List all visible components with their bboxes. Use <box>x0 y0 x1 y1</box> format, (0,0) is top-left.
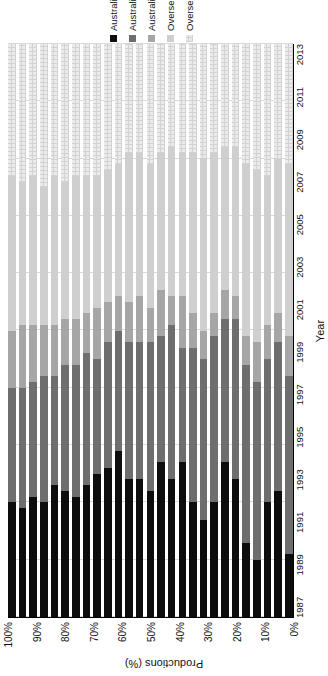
bar-segment[interactable] <box>264 176 272 325</box>
bar-segment[interactable] <box>61 491 69 617</box>
bar-segment[interactable] <box>72 319 80 365</box>
table-row[interactable] <box>29 44 37 617</box>
bar-segment[interactable] <box>19 325 27 388</box>
bar-segment[interactable] <box>19 44 27 182</box>
bar-segment[interactable] <box>189 313 197 347</box>
bar-segment[interactable] <box>189 44 197 153</box>
bar-segment[interactable] <box>93 44 101 176</box>
bar-segment[interactable] <box>61 319 69 365</box>
bar-segment[interactable] <box>189 153 197 313</box>
bar-segment[interactable] <box>210 502 218 617</box>
bar-segment[interactable] <box>8 502 16 617</box>
table-row[interactable] <box>19 44 27 617</box>
table-row[interactable] <box>210 44 218 617</box>
bar-segment[interactable] <box>40 187 48 325</box>
bar-segment[interactable] <box>264 44 272 176</box>
bar-segment[interactable] <box>8 388 16 503</box>
bar-segment[interactable] <box>29 44 37 176</box>
bar-segment[interactable] <box>125 44 133 153</box>
bar-segment[interactable] <box>147 44 155 164</box>
bar-segment[interactable] <box>264 502 272 617</box>
bar-segment[interactable] <box>221 319 229 462</box>
bar-segment[interactable] <box>168 147 176 296</box>
bar-segment[interactable] <box>285 164 293 336</box>
table-row[interactable] <box>264 44 272 617</box>
table-row[interactable] <box>253 44 261 617</box>
bar-segment[interactable] <box>179 153 187 296</box>
legend-item[interactable]: Overseas classic <box>165 2 176 42</box>
bar-segment[interactable] <box>253 342 261 382</box>
table-row[interactable] <box>83 44 91 617</box>
bar-segment[interactable] <box>157 290 165 336</box>
bar-segment[interactable] <box>274 159 282 314</box>
bar-segment[interactable] <box>51 376 59 485</box>
bar-segment[interactable] <box>51 485 59 617</box>
bar-segment[interactable] <box>274 342 282 491</box>
bar-segment[interactable] <box>51 325 59 377</box>
bar-segment[interactable] <box>232 479 240 617</box>
bar-segment[interactable] <box>253 170 261 342</box>
table-row[interactable] <box>61 44 69 617</box>
bar-segment[interactable] <box>72 44 80 176</box>
bar-segment[interactable] <box>115 44 123 164</box>
bar-segment[interactable] <box>104 44 112 170</box>
bar-segment[interactable] <box>157 44 165 153</box>
bar-segment[interactable] <box>104 170 112 302</box>
bar-segment[interactable] <box>72 365 80 497</box>
bar-segment[interactable] <box>221 290 229 319</box>
table-row[interactable] <box>115 44 123 617</box>
bar-segment[interactable] <box>253 560 261 617</box>
bar-segment[interactable] <box>200 331 208 360</box>
bar-segment[interactable] <box>29 325 37 382</box>
bar-segment[interactable] <box>147 164 155 307</box>
bar-segment[interactable] <box>125 342 133 480</box>
bar-segment[interactable] <box>253 44 261 170</box>
bar-segment[interactable] <box>179 462 187 617</box>
bar-segment[interactable] <box>210 44 218 153</box>
bar-segment[interactable] <box>168 44 176 147</box>
bar-segment[interactable] <box>232 44 240 147</box>
bar-segment[interactable] <box>51 44 59 176</box>
bar-segment[interactable] <box>104 302 112 342</box>
table-row[interactable] <box>40 44 48 617</box>
table-row[interactable] <box>72 44 80 617</box>
bar-segment[interactable] <box>242 543 250 617</box>
bar-segment[interactable] <box>115 296 123 330</box>
bar-segment[interactable] <box>8 44 16 176</box>
bar-segment[interactable] <box>242 365 250 543</box>
bar-segment[interactable] <box>285 376 293 554</box>
table-row[interactable] <box>125 44 133 617</box>
bar-segment[interactable] <box>61 365 69 491</box>
bar-segment[interactable] <box>104 468 112 617</box>
table-row[interactable] <box>200 44 208 617</box>
legend-item[interactable]: Australian New <box>108 2 119 42</box>
bar-segment[interactable] <box>40 44 48 187</box>
table-row[interactable] <box>51 44 59 617</box>
bar-segment[interactable] <box>221 44 229 147</box>
bar-segment[interactable] <box>125 302 133 342</box>
bar-segment[interactable] <box>147 342 155 491</box>
bar-segment[interactable] <box>83 353 91 485</box>
bar-segment[interactable] <box>115 164 123 296</box>
bar-segment[interactable] <box>179 44 187 153</box>
bar-segment[interactable] <box>210 313 218 336</box>
bar-segment[interactable] <box>136 153 144 296</box>
bar-segment[interactable] <box>83 176 91 314</box>
table-row[interactable] <box>104 44 112 617</box>
bar-segment[interactable] <box>179 296 187 348</box>
table-row[interactable] <box>8 44 16 617</box>
bar-segment[interactable] <box>189 502 197 617</box>
bar-segment[interactable] <box>93 308 101 360</box>
table-row[interactable] <box>189 44 197 617</box>
bar-segment[interactable] <box>274 313 282 342</box>
bar-segment[interactable] <box>210 153 218 313</box>
bar-segment[interactable] <box>242 336 250 365</box>
table-row[interactable] <box>168 44 176 617</box>
bar-segment[interactable] <box>179 348 187 463</box>
bar-segment[interactable] <box>51 176 59 325</box>
bar-segment[interactable] <box>125 153 133 302</box>
bar-segment[interactable] <box>29 176 37 325</box>
bar-segment[interactable] <box>40 502 48 617</box>
bar-segment[interactable] <box>104 342 112 468</box>
bar-segment[interactable] <box>40 376 48 502</box>
